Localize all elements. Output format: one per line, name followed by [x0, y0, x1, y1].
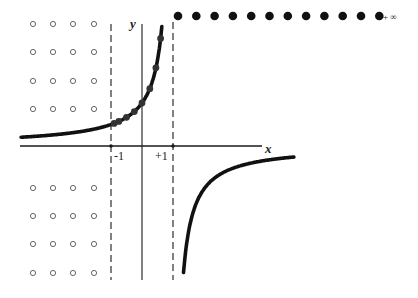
open-dot	[50, 241, 55, 246]
infinity-label: + ∞	[383, 12, 397, 22]
open-dot	[50, 49, 55, 54]
filled-dot	[265, 12, 274, 21]
label-minus-one: -1	[114, 149, 124, 163]
filled-dot	[210, 12, 219, 21]
open-dot	[30, 213, 35, 218]
curve-point	[157, 35, 164, 42]
open-dot	[91, 49, 96, 54]
open-dot	[50, 185, 55, 190]
filled-dot	[320, 12, 329, 21]
filled-dot	[247, 12, 256, 21]
open-dot	[70, 49, 75, 54]
open-dot	[50, 106, 55, 111]
curve-point	[123, 114, 130, 121]
curve-point	[146, 85, 153, 92]
open-dot	[70, 78, 75, 83]
curve-point	[139, 100, 146, 107]
label-plus-one: +1	[155, 149, 168, 163]
open-dot	[50, 78, 55, 83]
filled-dot	[284, 12, 293, 21]
open-dot	[30, 241, 35, 246]
open-dot	[91, 213, 96, 218]
open-dot	[91, 106, 96, 111]
open-dot	[30, 49, 35, 54]
tick-minus-one	[109, 144, 113, 148]
open-dot	[30, 106, 35, 111]
open-dot	[91, 21, 96, 26]
function-diagram: y x -1 +1 + ∞	[0, 0, 418, 298]
curve-point	[115, 118, 122, 125]
open-dot	[30, 21, 35, 26]
open-dot	[70, 21, 75, 26]
open-dot	[70, 241, 75, 246]
open-dot	[70, 213, 75, 218]
x-axis-label: x	[264, 141, 272, 156]
filled-dot	[302, 12, 311, 21]
open-dot	[30, 270, 35, 275]
filled-dot	[338, 12, 347, 21]
filled-dot	[192, 12, 201, 21]
open-dot	[50, 213, 55, 218]
curve-right-branch	[184, 157, 294, 273]
open-dot	[30, 78, 35, 83]
open-dot-grid	[30, 21, 96, 275]
filled-dot	[229, 12, 238, 21]
open-dot	[91, 78, 96, 83]
filled-dot	[357, 12, 366, 21]
open-dot	[91, 270, 96, 275]
open-dot	[30, 185, 35, 190]
curve-point	[153, 64, 160, 71]
filled-dot-row	[174, 12, 384, 21]
open-dot	[70, 270, 75, 275]
open-dot	[91, 185, 96, 190]
y-axis-label: y	[128, 16, 136, 31]
open-dot	[70, 106, 75, 111]
tick-plus-one	[171, 144, 175, 148]
open-dot	[91, 241, 96, 246]
filled-dot	[174, 12, 183, 21]
open-dot	[70, 185, 75, 190]
open-dot	[50, 270, 55, 275]
open-dot	[50, 21, 55, 26]
curve-point	[131, 108, 138, 115]
